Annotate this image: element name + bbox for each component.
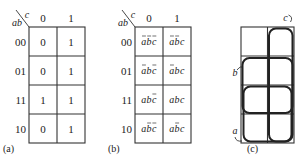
minterm-letter: c: [152, 36, 157, 47]
minterm-letter: b: [147, 123, 152, 134]
row-header: 11: [15, 94, 26, 106]
cell-value: 1: [68, 94, 74, 106]
minterm-letter: c: [180, 36, 185, 47]
minterm-letter: b: [175, 36, 180, 47]
minterm-letter: c: [152, 65, 157, 76]
row-header: 00: [15, 36, 27, 48]
caption-c: (c): [247, 143, 258, 155]
cell-value: 0: [40, 65, 46, 77]
minterm-letter: b: [147, 94, 152, 105]
minterm-cell: abc: [141, 65, 157, 76]
cell-value: 1: [68, 36, 74, 48]
row-var-label: ab: [118, 17, 128, 28]
minterm-letter: b: [175, 94, 180, 105]
kmap-b: cab0100011110abcabcabcabcabcabcabcabc(b): [108, 9, 191, 155]
minterm-letter: c: [152, 123, 157, 134]
minterm-cell: abc: [169, 65, 185, 76]
group-c-arrow: [289, 15, 292, 22]
cell-value: 0: [40, 36, 46, 48]
col-header: 0: [146, 12, 152, 24]
row-var-label: ab: [12, 17, 22, 28]
kmap-c: cba(c): [233, 12, 295, 155]
col-header: 1: [174, 12, 180, 24]
group-c-label: c: [283, 12, 288, 23]
cell-value: 1: [68, 65, 74, 77]
col-var-label: c: [25, 9, 30, 20]
minterm-cell: abc: [141, 36, 157, 47]
group-b-label: b: [233, 67, 238, 78]
minterm-letter: c: [180, 65, 185, 76]
col-header: 0: [40, 12, 46, 24]
minterm-letter: b: [147, 36, 152, 47]
minterm-cell: abc: [141, 94, 157, 105]
kmap-figure: cab010001111001011101(a) cab0100011110ab…: [0, 0, 305, 161]
cell-value: 0: [40, 123, 46, 135]
cell-value: 1: [40, 94, 46, 106]
minterm-letter: c: [152, 94, 157, 105]
minterm-letter: b: [175, 65, 180, 76]
row-header: 01: [15, 65, 26, 77]
caption-a: (a): [3, 143, 14, 155]
row-header: 10: [121, 123, 133, 135]
col-header: 1: [68, 12, 74, 24]
caption-b: (b): [108, 143, 120, 155]
row-header: 11: [121, 94, 132, 106]
row-header: 01: [121, 65, 132, 77]
kmap-a: cab010001111001011101(a): [3, 9, 85, 155]
minterm-cell: abc: [141, 123, 157, 134]
minterm-cell: abc: [169, 94, 185, 105]
row-header: 00: [121, 36, 133, 48]
minterm-cell: abc: [169, 36, 185, 47]
row-header: 10: [15, 123, 27, 135]
minterm-letter: b: [175, 123, 180, 134]
col-var-label: c: [131, 9, 136, 20]
minterm-letter: b: [147, 65, 152, 76]
minterm-letter: c: [180, 123, 185, 134]
cell-value: 1: [68, 123, 74, 135]
minterm-letter: c: [180, 94, 185, 105]
group-a-label: a: [233, 125, 238, 136]
minterm-cell: abc: [169, 123, 185, 134]
